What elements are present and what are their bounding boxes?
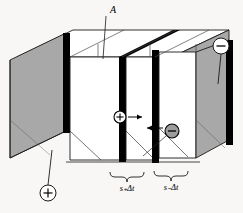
front-panel-3-surface (159, 52, 196, 158)
charge-drift-diagram: A s₊Δt s₋Δt (0, 0, 243, 213)
positive-terminal (40, 150, 56, 201)
negative-drift-label: s₋Δt (164, 182, 179, 192)
front-panel-1-surface (70, 57, 122, 160)
right-end-gray-panel (196, 40, 229, 158)
figure-container: A s₊Δt s₋Δt (0, 0, 243, 213)
right-thick-edge (226, 40, 233, 145)
conductor-left-end-face (10, 33, 66, 158)
conductor-right-end-face (196, 40, 229, 158)
A-plane-front-vertical (119, 57, 126, 162)
front-panel-2 (126, 57, 155, 160)
positive-drift-brace-shape (110, 172, 144, 182)
left-thick-edge (63, 33, 70, 133)
front-panel-2-surface (126, 57, 155, 160)
drift-distance-braces: s₊Δt s₋Δt (110, 171, 188, 193)
negative-drift-brace-shape (154, 171, 188, 181)
left-end-gray-panel (10, 33, 66, 158)
positive-terminal-stem (48, 150, 52, 185)
second-thick-partition (152, 50, 159, 163)
area-label-text: A (109, 4, 117, 15)
positive-drift-label: s₊Δt (120, 183, 135, 193)
front-panel-1 (70, 57, 122, 160)
front-panel-3 (159, 52, 196, 158)
